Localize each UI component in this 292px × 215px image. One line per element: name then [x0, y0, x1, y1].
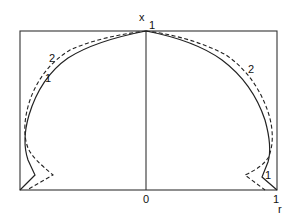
curve-1-left — [20, 31, 146, 190]
curve-2-right-label: 2 — [248, 63, 254, 75]
origin-tick-label: 0 — [143, 193, 149, 205]
r-axis-label: r — [278, 203, 282, 215]
curve-2-right — [146, 31, 272, 190]
curve-2-left — [25, 31, 146, 190]
curve-2-left-label: 2 — [49, 52, 55, 64]
x-axis-label: x — [139, 11, 145, 23]
curve-1-left-label: 1 — [45, 72, 51, 84]
profile-diagram: x 1 0 1 r 2 1 2 1 — [0, 0, 292, 215]
x-top-tick-label: 1 — [149, 19, 155, 31]
curve-1-right — [146, 31, 277, 190]
curve-1-right-label: 1 — [265, 169, 271, 181]
plot-frame — [20, 31, 277, 190]
